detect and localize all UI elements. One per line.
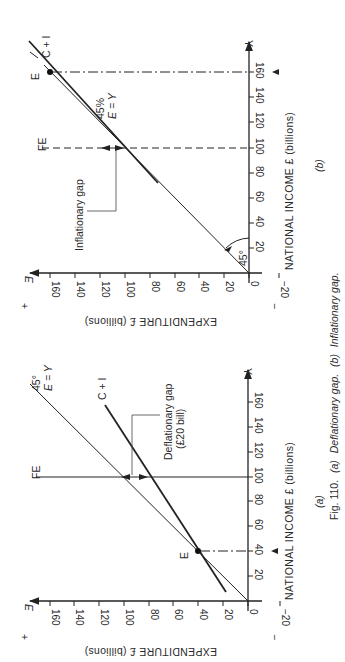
b-y-ticks bbox=[249, 72, 254, 248]
a-plus-sign: + bbox=[19, 634, 31, 640]
a-45-label: 45° bbox=[30, 375, 42, 391]
b-gap-leader bbox=[87, 150, 116, 211]
b-e-axis-symbol: E bbox=[23, 276, 35, 284]
svg-text:100: 100 bbox=[254, 138, 265, 155]
a-e-ticks bbox=[50, 601, 280, 606]
svg-text:60: 60 bbox=[254, 191, 265, 203]
svg-text:20: 20 bbox=[254, 241, 265, 253]
a-ylabel: EXPENDITURE £ (billions) bbox=[84, 646, 217, 658]
b-xlabel: NATIONAL INCOME £ (billions) bbox=[283, 112, 295, 270]
svg-text:80: 80 bbox=[149, 609, 160, 621]
caption-b-tag: (b) bbox=[328, 354, 340, 367]
a-e-axis-symbol: E bbox=[23, 604, 35, 612]
a-eq-label: E bbox=[178, 552, 190, 559]
svg-text:0: 0 bbox=[248, 609, 259, 615]
svg-text:120: 120 bbox=[254, 112, 265, 129]
figure-110: E −20 0 20 40 60 80 100 120 140 160 + − … bbox=[0, 0, 345, 662]
a-gap-leader bbox=[132, 415, 160, 475]
a-marker-arrow bbox=[271, 548, 278, 554]
caption-prefix: Fig. 110. bbox=[328, 480, 340, 520]
svg-text:40: 40 bbox=[254, 216, 265, 228]
svg-text:80: 80 bbox=[253, 494, 264, 506]
a-gap-sub: (£20 bill) bbox=[174, 409, 186, 449]
a-minus-sign: − bbox=[269, 634, 281, 640]
svg-text:40: 40 bbox=[253, 544, 264, 556]
caption-b-text: Inflationary gap. bbox=[328, 272, 340, 347]
caption-a-tag: (a) bbox=[328, 460, 340, 473]
b-ci-label: C + I bbox=[40, 36, 52, 58]
b-gap-label: Inflationary gap bbox=[73, 179, 85, 251]
a-y-ticks bbox=[248, 402, 253, 576]
svg-text:160: 160 bbox=[50, 281, 61, 298]
a-ci-label: C + I bbox=[96, 378, 108, 400]
svg-text:20: 20 bbox=[223, 609, 234, 621]
svg-text:140: 140 bbox=[74, 609, 85, 626]
b-eq-label: E bbox=[29, 73, 41, 80]
svg-text:−20: −20 bbox=[280, 609, 291, 626]
a-xlabel: NATIONAL INCOME £ (billions) bbox=[283, 442, 295, 600]
svg-text:140: 140 bbox=[254, 87, 265, 104]
svg-text:120: 120 bbox=[253, 442, 264, 459]
b-eq-point bbox=[47, 69, 53, 75]
svg-text:100: 100 bbox=[124, 609, 135, 626]
svg-text:60: 60 bbox=[253, 519, 264, 531]
svg-text:140: 140 bbox=[75, 281, 86, 298]
svg-text:100: 100 bbox=[253, 467, 264, 484]
svg-text:0: 0 bbox=[249, 281, 260, 287]
caption-a-text: Deflationary gap. bbox=[328, 374, 340, 453]
a-gap-arrow-right bbox=[139, 474, 148, 480]
b-marker-arrow bbox=[272, 69, 279, 75]
panel-b: E −20 0 20 40 60 80 100 120 140 160 + − … bbox=[19, 36, 325, 328]
a-tag: (a) bbox=[313, 495, 325, 508]
svg-text:120: 120 bbox=[99, 609, 110, 626]
a-45-eq: E = Y bbox=[42, 364, 54, 391]
svg-text:60: 60 bbox=[175, 281, 186, 293]
b-tag: (b) bbox=[313, 159, 325, 172]
caption: Fig. 110. (a) Deflationary gap. (b) Infl… bbox=[328, 272, 340, 520]
svg-text:120: 120 bbox=[100, 281, 111, 298]
svg-text:20: 20 bbox=[253, 569, 264, 581]
b-angle-label: 45° bbox=[237, 250, 249, 266]
b-gap-arrow-left bbox=[101, 145, 110, 151]
b-e-ticks bbox=[50, 273, 279, 278]
b-ylabel: EXPENDITURE £ (billions) bbox=[84, 316, 217, 328]
a-fe-label: FE bbox=[30, 466, 42, 479]
a-45-line bbox=[30, 384, 248, 601]
a-y-axis-symbol: Y bbox=[242, 368, 254, 375]
svg-text:160: 160 bbox=[50, 609, 61, 626]
a-eq-point bbox=[195, 548, 201, 554]
svg-text:160: 160 bbox=[254, 62, 265, 79]
svg-text:60: 60 bbox=[173, 609, 184, 621]
svg-text:100: 100 bbox=[125, 281, 136, 298]
a-gap-label: Deflationary gap bbox=[162, 383, 174, 460]
b-45-label: 45% bbox=[94, 98, 106, 119]
b-minus-sign: − bbox=[269, 303, 281, 309]
svg-text:80: 80 bbox=[150, 281, 161, 293]
svg-text:140: 140 bbox=[253, 417, 264, 434]
svg-text:40: 40 bbox=[199, 281, 210, 293]
svg-text:Fig. 110. (a) Defl: Fig. 110. (a) Deflationary gap. (b) Infl… bbox=[328, 272, 340, 520]
svg-text:160: 160 bbox=[253, 392, 264, 409]
b-y-tick-labels: 20 40 60 80 100 120 140 160 bbox=[254, 62, 265, 253]
b-y-axis-symbol: Y bbox=[243, 40, 255, 47]
b-fe-label: FE bbox=[36, 138, 48, 151]
panel-a: E −20 0 20 40 60 80 100 120 140 160 + − … bbox=[19, 364, 325, 658]
a-e-tick-labels: −20 0 20 40 60 80 100 120 140 160 bbox=[50, 609, 291, 626]
a-y-tick-labels: 20 40 60 80 100 120 140 160 bbox=[253, 392, 264, 581]
b-e-tick-labels: −20 0 20 40 60 80 100 120 140 160 bbox=[50, 281, 290, 298]
b-angle-arc bbox=[226, 238, 249, 248]
b-plus-sign: + bbox=[19, 303, 31, 309]
svg-text:20: 20 bbox=[224, 281, 235, 293]
svg-text:80: 80 bbox=[254, 166, 265, 178]
svg-text:−20: −20 bbox=[279, 281, 290, 298]
svg-text:40: 40 bbox=[198, 609, 209, 621]
b-45-eq: E = Y bbox=[106, 92, 118, 119]
b-ci-tick bbox=[30, 52, 38, 58]
